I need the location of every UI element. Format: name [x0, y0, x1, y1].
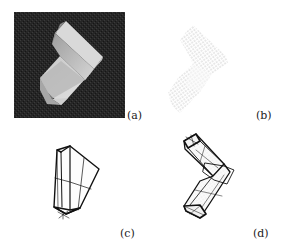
panel-d-label: (d) — [253, 227, 269, 240]
panel-c-wireframe — [54, 146, 99, 219]
panel-a-label: (a) — [127, 109, 142, 122]
panel-b-point-cloud — [168, 25, 228, 113]
panel-c-label: (c) — [120, 227, 135, 240]
figure-canvas — [0, 0, 285, 249]
panel-b-label: (b) — [256, 109, 272, 122]
panel-d-wireframe — [184, 134, 234, 218]
panel-a-photo — [14, 12, 125, 118]
